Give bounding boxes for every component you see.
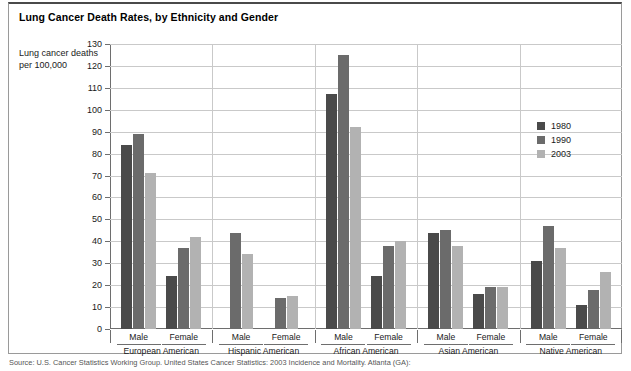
- y-axis-tick-label: 80: [92, 149, 102, 159]
- page-title: Lung Cancer Death Rates, by Ethnicity an…: [19, 11, 278, 23]
- plot-area: 0102030405060708090100110120130: [110, 44, 622, 329]
- gridline: [110, 44, 622, 45]
- y-axis-tick: [105, 154, 110, 155]
- bar-asian-american-female-2003: [497, 287, 508, 329]
- y-axis-tick: [105, 197, 110, 198]
- bar-african-american-female-1990: [383, 246, 394, 329]
- x-axis: MaleFemaleEuropean AmericanMaleFemaleHis…: [110, 330, 622, 358]
- y-axis-tick-label: 90: [92, 127, 102, 137]
- gridline: [110, 219, 622, 220]
- y-axis-tick-label: 120: [87, 61, 102, 71]
- ethnicity-axis-separator: [621, 330, 622, 343]
- bar-hispanic-american-female-1990: [275, 298, 286, 329]
- ethnicity-axis-separator: [315, 330, 316, 343]
- y-axis-tick: [105, 44, 110, 45]
- ethnicity-axis-separator: [520, 330, 521, 343]
- y-axis-tick: [105, 110, 110, 111]
- group-separator: [417, 44, 418, 329]
- legend-swatch-icon: [537, 150, 545, 158]
- gender-underline: [571, 344, 615, 345]
- y-axis-tick: [105, 263, 110, 264]
- legend-label: 1980: [551, 121, 571, 131]
- gridline: [110, 88, 622, 89]
- x-axis-gender-label: Female: [461, 332, 521, 342]
- bar-native-american-female-1980: [576, 305, 587, 329]
- bar-hispanic-american-female-2003: [287, 296, 298, 329]
- y-axis-tick-label: 130: [87, 39, 102, 49]
- legend-item-1990: 1990: [537, 133, 607, 147]
- y-axis-tick: [105, 176, 110, 177]
- y-axis-tick-label: 10: [92, 302, 102, 312]
- x-axis-gender-label: Female: [563, 332, 623, 342]
- bar-european-american-female-1980: [166, 276, 177, 329]
- gender-underline: [367, 344, 411, 345]
- gridline: [110, 66, 622, 67]
- bar-native-american-female-1990: [588, 290, 599, 329]
- x-axis-ethnicity-label: Native American: [516, 346, 626, 356]
- y-axis-tick-label: 0: [97, 324, 102, 334]
- x-axis-ethnicity-label: European American: [106, 346, 216, 356]
- bar-asian-american-male-1980: [428, 233, 439, 329]
- bar-asian-american-female-1980: [473, 294, 484, 329]
- y-axis-tick: [105, 219, 110, 220]
- bar-african-american-male-2003: [350, 127, 361, 329]
- group-separator: [315, 44, 316, 329]
- bar-hispanic-american-male-2003: [242, 254, 253, 329]
- gridline: [110, 176, 622, 177]
- y-axis-tick: [105, 241, 110, 242]
- ethnicity-axis-separator: [212, 330, 213, 343]
- legend-item-2003: 2003: [537, 147, 607, 161]
- bar-european-american-male-1990: [133, 134, 144, 329]
- gender-underline: [424, 344, 468, 345]
- gender-underline: [219, 344, 263, 345]
- bar-european-american-male-2003: [145, 173, 156, 329]
- y-axis-tick: [105, 285, 110, 286]
- legend-item-1980: 1980: [537, 119, 607, 133]
- y-axis-tick: [105, 88, 110, 89]
- y-axis-tick: [105, 307, 110, 308]
- bar-asian-american-male-1990: [440, 230, 451, 329]
- bar-native-american-male-1980: [531, 261, 542, 329]
- ethnicity-axis-separator: [110, 330, 111, 343]
- y-axis-tick: [105, 66, 110, 67]
- bar-european-american-female-2003: [190, 237, 201, 329]
- bar-european-american-female-1990: [178, 248, 189, 329]
- gender-underline: [469, 344, 513, 345]
- bar-native-american-male-2003: [555, 248, 566, 329]
- gender-underline: [264, 344, 308, 345]
- y-axis-tick-label: 50: [92, 214, 102, 224]
- y-axis-tick-label: 30: [92, 258, 102, 268]
- group-separator: [212, 44, 213, 329]
- legend-swatch-icon: [537, 136, 545, 144]
- gender-underline: [117, 344, 161, 345]
- y-axis-tick-label: 70: [92, 171, 102, 181]
- group-separator: [520, 44, 521, 329]
- x-axis-gender-label: Female: [154, 332, 214, 342]
- chart-figure: Lung Cancer Death Rates, by Ethnicity an…: [8, 2, 622, 354]
- legend-label: 2003: [551, 149, 571, 159]
- bar-african-american-female-1980: [371, 276, 382, 329]
- bar-african-american-male-1990: [338, 55, 349, 329]
- bar-african-american-female-2003: [395, 241, 406, 329]
- bar-native-american-female-2003: [600, 272, 611, 329]
- bar-african-american-male-1980: [326, 94, 337, 329]
- gridline: [110, 110, 622, 111]
- y-axis-tick-label: 40: [92, 236, 102, 246]
- y-axis-tick-label: 110: [88, 83, 102, 93]
- ethnicity-axis-separator: [417, 330, 418, 343]
- bar-asian-american-male-2003: [452, 246, 463, 329]
- y-axis-tick: [105, 132, 110, 133]
- bar-hispanic-american-male-1990: [230, 233, 241, 329]
- bar-asian-american-female-1990: [485, 287, 496, 329]
- legend-label: 1990: [551, 135, 571, 145]
- y-axis-tick-label: 60: [92, 192, 102, 202]
- gender-underline: [162, 344, 206, 345]
- bar-european-american-male-1980: [121, 145, 132, 329]
- gridline: [110, 197, 622, 198]
- x-axis-gender-label: Female: [256, 332, 316, 342]
- x-axis-ethnicity-label: African American: [311, 346, 421, 356]
- x-axis-gender-label: Female: [359, 332, 419, 342]
- source-note: Source: U.S. Cancer Statistics Working G…: [9, 358, 410, 367]
- bar-native-american-male-1990: [543, 226, 554, 329]
- y-axis-tick-label: 100: [87, 105, 102, 115]
